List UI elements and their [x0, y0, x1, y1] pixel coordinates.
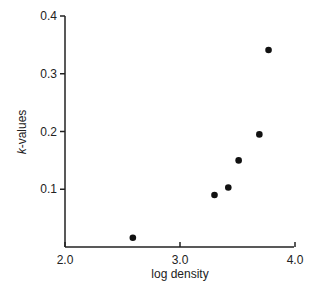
data-point [225, 184, 232, 191]
data-point [130, 234, 137, 241]
x-ticks: 2.03.04.0 [57, 242, 304, 267]
data-point [265, 47, 272, 54]
y-tick-label: 0.1 [40, 182, 57, 196]
data-points [130, 47, 272, 241]
x-tick-label: 4.0 [287, 253, 304, 267]
x-tick-label: 3.0 [172, 253, 189, 267]
y-tick-label: 0.3 [40, 67, 57, 81]
x-tick-label: 2.0 [57, 253, 74, 267]
y-tick-label: 0.4 [40, 9, 57, 23]
x-axis-label: log density [151, 267, 208, 281]
y-tick-label: 0.2 [40, 125, 57, 139]
y-ticks: 0.10.20.30.4 [40, 9, 65, 196]
y-axis-label: k-values [15, 110, 29, 155]
data-point [235, 157, 242, 164]
data-point [211, 192, 218, 199]
scatter-chart: 0.10.20.30.4 2.03.04.0 log density k-val… [0, 0, 316, 292]
data-point [256, 131, 263, 138]
